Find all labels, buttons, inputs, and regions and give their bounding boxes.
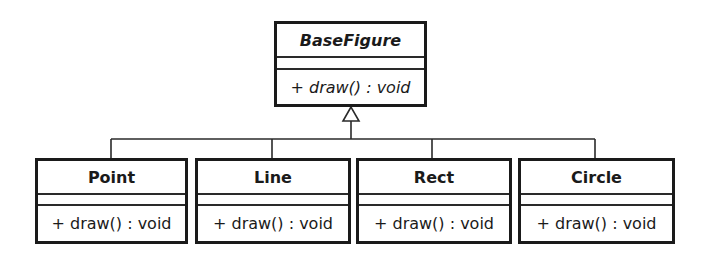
attributes-compartment [521, 195, 672, 206]
operation-draw: + draw() : void [38, 206, 185, 241]
operation-draw: + draw() : void [277, 70, 424, 104]
class-name: BaseFigure [277, 24, 424, 58]
class-basefigure[interactable]: BaseFigure + draw() : void [274, 21, 427, 107]
class-name: Circle [521, 161, 672, 195]
attributes-compartment [277, 58, 424, 70]
class-point[interactable]: Point + draw() : void [35, 158, 188, 244]
class-name: Point [38, 161, 185, 195]
generalization-arrow-icon [343, 107, 359, 121]
class-name: Rect [359, 161, 509, 195]
attributes-compartment [38, 195, 185, 206]
operation-draw: + draw() : void [198, 206, 348, 241]
class-circle[interactable]: Circle + draw() : void [518, 158, 675, 244]
attributes-compartment [198, 195, 348, 206]
class-name: Line [198, 161, 348, 195]
class-line[interactable]: Line + draw() : void [195, 158, 351, 244]
operation-draw: + draw() : void [521, 206, 672, 241]
class-rect[interactable]: Rect + draw() : void [356, 158, 512, 244]
attributes-compartment [359, 195, 509, 206]
operation-draw: + draw() : void [359, 206, 509, 241]
